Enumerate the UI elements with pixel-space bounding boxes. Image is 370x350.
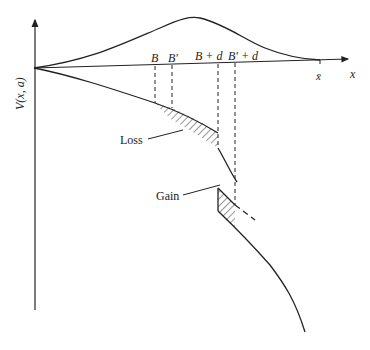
gain-region xyxy=(218,188,235,228)
gain-pointer xyxy=(183,185,220,195)
loss-region xyxy=(155,103,218,148)
loss-label: Loss xyxy=(120,133,143,147)
tick-label-b: B xyxy=(151,51,159,65)
tick-label-b-prime: B' xyxy=(168,51,178,65)
gain-label: Gain xyxy=(156,189,179,203)
value-curve-lower-segment xyxy=(218,148,237,182)
value-function-diagram: V(x, a) x x̄ B B' B + d B' + d Loss Gain xyxy=(0,0,370,350)
y-axis-label: V(x, a) xyxy=(13,77,27,110)
tick-label-b-prime-plus-d: B' + d xyxy=(228,49,259,63)
x-axis xyxy=(34,59,348,68)
value-curve-tail xyxy=(218,211,305,332)
x-axis-label: x xyxy=(349,67,356,81)
x-max-label: x̄ xyxy=(315,70,321,82)
tangent-extension xyxy=(235,205,255,220)
tick-label-b-plus-d: B + d xyxy=(195,49,223,63)
loss-pointer xyxy=(148,130,183,139)
